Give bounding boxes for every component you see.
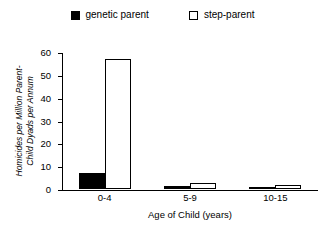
y-axis-tick-label: 50 <box>40 71 51 81</box>
y-axis-tick-label: 60 <box>40 48 51 58</box>
y-axis-tick-label: 30 <box>40 117 51 127</box>
legend-item-genetic-parent: genetic parent <box>71 10 149 20</box>
x-axis-tick-label: 5-9 <box>147 193 232 203</box>
x-axis-title: Age of Child (years) <box>62 210 318 220</box>
bar-genetic-parent <box>164 186 190 189</box>
filled-square-icon <box>71 11 80 20</box>
y-axis-title: Homicides per Million Parent- Child Dyad… <box>10 48 38 194</box>
bar-genetic-parent <box>249 187 275 189</box>
chart-legend: genetic parent step-parent <box>0 10 325 20</box>
open-square-icon <box>189 11 198 20</box>
bar-step-parent <box>275 185 301 189</box>
x-axis-line <box>62 190 318 191</box>
legend-item-step-parent: step-parent <box>189 10 255 20</box>
plot-area: 0102030405060 0-45-910-15 <box>62 53 318 190</box>
legend-label-step-parent: step-parent <box>204 10 255 20</box>
y-axis-tick-label: 10 <box>40 162 51 172</box>
bar-step-parent <box>190 183 216 189</box>
bar-group: 10-15 <box>233 52 318 189</box>
y-axis-tick: 0 <box>58 190 63 191</box>
x-axis-tick-label: 0-4 <box>62 193 147 203</box>
y-axis-title-line-1: Homicides per Million Parent- <box>13 65 23 176</box>
bar-step-parent <box>105 59 131 189</box>
x-axis-tick-label: 10-15 <box>233 193 318 203</box>
bar-group: 0-4 <box>62 52 147 189</box>
y-axis-title-line-2: Child Dyads per Annum <box>24 65 35 176</box>
y-axis-tick-label: 0 <box>46 185 51 195</box>
y-axis-tick-label: 40 <box>40 94 51 104</box>
legend-label-genetic-parent: genetic parent <box>86 10 149 20</box>
bar-group: 5-9 <box>147 52 232 189</box>
y-axis-tick-label: 20 <box>40 140 51 150</box>
bar-chart-figure: genetic parent step-parent Homicides per… <box>0 0 325 233</box>
bar-genetic-parent <box>79 173 105 189</box>
